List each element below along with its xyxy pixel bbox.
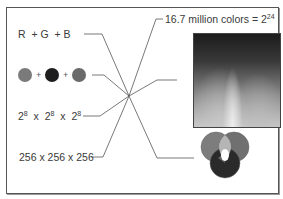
power-exponent: 8 [24, 110, 28, 117]
b-label: B [64, 28, 71, 40]
power-label: 28 x 28 x 28 [18, 110, 81, 122]
plus-label: + [55, 28, 61, 40]
red-swatch [18, 68, 32, 82]
g-label: G [41, 28, 49, 40]
plus-label: + [31, 28, 37, 40]
total-colors-text: 16.7 million colors = 2 [165, 13, 267, 25]
power-exponent: 8 [51, 110, 55, 117]
r-label: R [18, 28, 26, 40]
total-exponent: 24 [267, 13, 275, 20]
times-symbol: x [60, 110, 65, 122]
decimal-label: 256 x 256 x 256 [19, 151, 94, 163]
power-exponent: 8 [77, 110, 81, 117]
rgb-label: R + G + B [18, 28, 71, 40]
total-colors-label: 16.7 million colors = 224 [165, 13, 275, 25]
blue-swatch [72, 68, 86, 82]
color-spectrum-image [193, 33, 281, 128]
times-symbol: x [34, 110, 39, 122]
green-swatch [45, 68, 59, 82]
plus-symbol: + [36, 70, 41, 80]
rgb-venn-diagram [196, 130, 254, 182]
plus-symbol: + [63, 70, 68, 80]
